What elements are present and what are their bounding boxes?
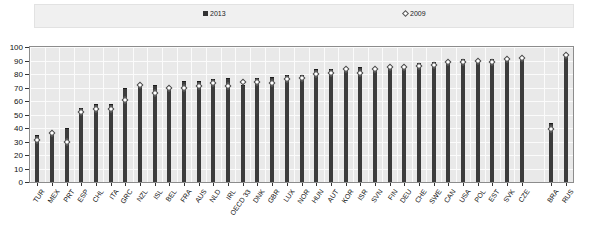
bar-nld (211, 79, 215, 182)
x-tick-label-kor: KOR (340, 188, 354, 204)
bar-aus (197, 81, 201, 182)
x-tick-label-rus: RUS (560, 188, 574, 204)
x-tick-label-hun: HUN (310, 188, 324, 204)
bar-prt (65, 128, 69, 182)
x-tick-mark (184, 183, 185, 186)
y-tick-label: 20 (14, 151, 23, 160)
bar-cze (520, 58, 524, 182)
y-tick-label: 80 (14, 70, 23, 79)
x-tick-label-grc: GRC (119, 188, 134, 205)
bar-chl (94, 104, 98, 182)
marker-bel (166, 84, 173, 91)
marker-grc (122, 96, 129, 103)
x-tick-mark (213, 183, 214, 186)
bar-lux (285, 75, 289, 182)
marker-esp (78, 108, 85, 115)
bar-isl (153, 85, 157, 182)
x-tick-label-usa: USA (458, 188, 472, 204)
legend-entry-2009: 2009 (403, 10, 426, 17)
x-tick-mark (111, 183, 112, 186)
x-tick-label-isl: ISL (152, 188, 164, 201)
x-tick-mark (96, 183, 97, 186)
x-tick-mark (155, 183, 156, 186)
x-tick-label-chl: CHL (91, 188, 105, 203)
x-tick-mark (67, 183, 68, 186)
x-tick-mark (448, 183, 449, 186)
x-tick-label-nor: NOR (296, 188, 311, 205)
y-tick-label: 10 (14, 164, 23, 173)
x-tick-label-fin: FIN (386, 188, 398, 201)
x-tick-mark (492, 183, 493, 186)
x-tick-label-can: CAN (443, 188, 457, 204)
x-tick-label-bra: BRA (546, 188, 560, 204)
x-tick-mark (140, 183, 141, 186)
x-tick-label-aus: AUS (194, 188, 208, 204)
bar-irl (226, 78, 230, 182)
y-tick-label: 50 (14, 110, 23, 119)
x-tick-label-isr: ISR (356, 188, 368, 202)
marker-fra (181, 84, 188, 91)
bar-pol (476, 59, 480, 182)
x-tick-mark (169, 183, 170, 186)
bar-fra (182, 81, 186, 182)
x-tick-mark (257, 183, 258, 186)
y-tick-label: 70 (14, 83, 23, 92)
x-tick-mark (52, 183, 53, 186)
bar-deu (402, 65, 406, 182)
bar-che (417, 63, 421, 182)
bar-swe (432, 62, 436, 182)
x-tick-label-esp: ESP (76, 188, 90, 203)
x-tick-label-dnk: DNK (252, 188, 266, 204)
bar-hun (314, 69, 318, 182)
x-tick-label-lux: LUX (282, 188, 296, 203)
x-tick-mark (566, 183, 567, 186)
y-tick-label: 60 (14, 97, 23, 106)
x-tick-label-ita: ITA (108, 188, 120, 201)
bar-bel (167, 86, 171, 182)
x-tick-mark (316, 183, 317, 186)
x-tick-mark (37, 183, 38, 186)
legend-label-2009: 2009 (410, 10, 426, 17)
x-tick-mark (302, 183, 303, 186)
x-tick-mark (346, 183, 347, 186)
x-tick-mark (287, 183, 288, 186)
x-tick-mark (228, 183, 229, 186)
x-tick-label-tur: TUR (32, 188, 46, 204)
x-axis: TURMEXPRTESPCHLITAGRCNZLISLBELFRAAUSNLDI… (0, 183, 590, 242)
bar-aut (329, 69, 333, 182)
y-tick-label: 100 (10, 43, 23, 52)
y-tick-label: 30 (14, 137, 23, 146)
x-tick-label-nld: NLD (208, 188, 222, 203)
bar-est (490, 59, 494, 182)
bar-nor (300, 75, 304, 182)
bars-layer (30, 47, 573, 182)
bar-esp (79, 108, 83, 182)
bar-svn (373, 67, 377, 182)
x-tick-mark (243, 183, 244, 186)
bar-mex (50, 131, 54, 182)
x-tick-mark (390, 183, 391, 186)
x-tick-label-swe: SWE (427, 188, 442, 205)
y-axis: 0102030405060708090100 (0, 46, 29, 183)
x-tick-label-cze: CZE (517, 188, 531, 203)
x-tick-mark (434, 183, 435, 186)
plot-area (29, 46, 574, 183)
x-tick-label-nzl: NZL (135, 188, 148, 203)
y-tick-label: 90 (14, 56, 23, 65)
marker-isr (357, 69, 364, 76)
x-tick-mark (463, 183, 464, 186)
x-tick-mark (375, 183, 376, 186)
x-tick-label-est: EST (487, 188, 501, 203)
x-tick-label-bel: BEL (165, 188, 178, 203)
x-tick-mark (125, 183, 126, 186)
bar-fin (388, 66, 392, 182)
x-tick-mark (507, 183, 508, 186)
legend-label-2013: 2013 (210, 10, 226, 17)
x-tick-label-irl: IRL (225, 188, 237, 201)
x-tick-label-svk: SVK (502, 188, 516, 203)
bar-usa (461, 59, 465, 182)
x-tick-mark (81, 183, 82, 186)
x-tick-label-fra: FRA (179, 188, 193, 203)
x-tick-label-che: CHE (413, 188, 427, 204)
bar-kor (344, 67, 348, 182)
